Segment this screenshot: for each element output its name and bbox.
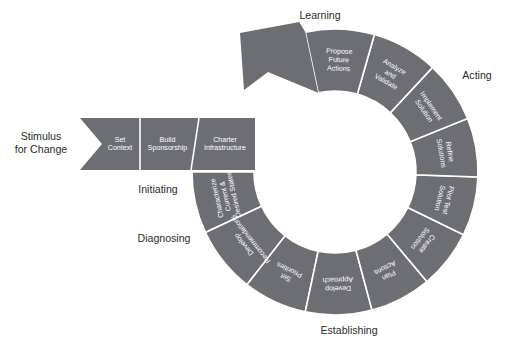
phase-label: Acting <box>462 69 492 81</box>
stimulus-label-text: Stimulusfor Change <box>15 130 68 155</box>
change-cycle-diagram: SetContextBuildSponsorshipCharterInfrast… <box>0 0 510 346</box>
phase-label: Learning <box>299 9 340 21</box>
diagram-canvas: SetContextBuildSponsorshipCharterInfrast… <box>0 0 510 346</box>
phase-label: Diagnosing <box>137 232 190 244</box>
ring-segment-label: ProposeFutureActions <box>325 47 352 73</box>
phase-label: Establishing <box>320 324 377 336</box>
stimulus-for-change-label: Stimulusfor Change <box>15 130 68 155</box>
phase-label: Initiating <box>138 183 178 195</box>
initiating-banner: SetContextBuildSponsorshipCharterInfrast… <box>80 118 255 170</box>
ring-segment-label: DevelopApproach <box>322 275 353 292</box>
